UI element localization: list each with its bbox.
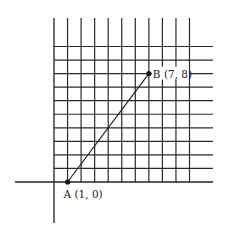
point-b-label: B (7, 8) [153,68,192,80]
grid-lines [54,18,213,182]
point-b [146,71,151,76]
point-a [65,179,70,184]
point-a-label: A (1, 0) [63,188,103,200]
coordinate-grid-diagram: A (1, 0)B (7, 8) [0,0,226,235]
